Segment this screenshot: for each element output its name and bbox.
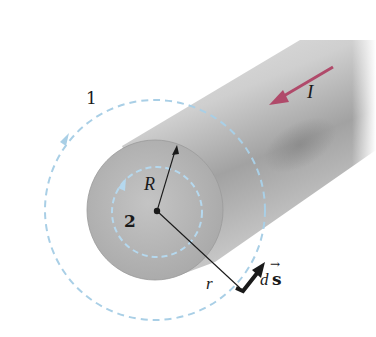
label-loop-1: 1 — [86, 88, 97, 108]
loop-1-direction-arrow-icon — [60, 133, 69, 146]
label-ds-s: s — [272, 269, 282, 289]
ampere-law-wire-diagram: 1 2 R r I d s → — [0, 0, 376, 337]
label-ds-vector-arrow: → — [270, 257, 280, 271]
label-radius-R: R — [143, 174, 155, 194]
label-ds-d: d — [260, 270, 269, 289]
cylinder-fade — [280, 30, 376, 170]
label-radius-r: r — [206, 274, 213, 293]
label-loop-2: 2 — [124, 211, 136, 231]
